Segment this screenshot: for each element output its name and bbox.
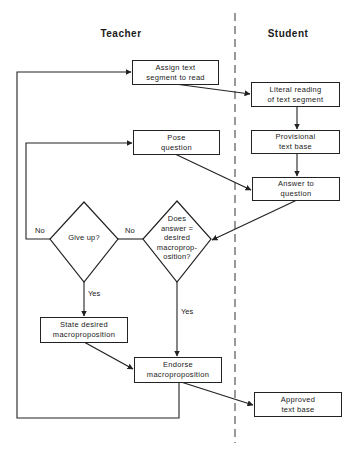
node-line: Provisional: [276, 132, 316, 142]
node-line: question: [161, 143, 192, 153]
node-line: Pose: [167, 133, 185, 143]
edge-answer-to-decision: [212, 200, 297, 240]
node-line: desired: [150, 233, 204, 243]
edge-endorse-to-approved: [181, 382, 253, 405]
edge-pose-to-answer: [175, 154, 251, 190]
node-pose-question: Pose question: [133, 130, 220, 155]
node-literal-reading: Literal reading of text segment: [251, 82, 340, 107]
node-line: Assign text: [156, 63, 196, 73]
node-provisional-text-base: Provisional text base: [251, 130, 340, 154]
node-line: text base: [279, 142, 312, 152]
node-line: Answer to: [278, 179, 314, 189]
node-state-desired-macroproposition: State desired macroproposition: [40, 317, 128, 343]
node-line: macroproposition: [147, 370, 209, 380]
node-line: Literal reading: [269, 85, 321, 95]
node-line: of text segment: [268, 95, 324, 105]
node-line: Endorse: [163, 360, 193, 370]
node-line: text base: [281, 405, 314, 415]
lane-title-student: Student: [248, 28, 328, 39]
node-line: segment to read: [146, 73, 205, 83]
node-line: macroproposition: [53, 330, 115, 340]
node-line: question: [281, 189, 312, 199]
edge-label-decision-no: No: [125, 226, 135, 235]
node-line: State desired: [60, 320, 108, 330]
node-line: macroprop-: [150, 243, 204, 253]
edge-label-giveup-yes: Yes: [88, 289, 100, 298]
node-assign-text-segment: Assign text segment to read: [132, 60, 219, 85]
edge-label-giveup-no: No: [35, 226, 45, 235]
node-line: osition?: [150, 252, 204, 262]
edge-assign-to-literal: [175, 84, 250, 94]
node-answer-to-question: Answer to question: [252, 177, 340, 201]
node-endorse-macroproposition: Endorse macroproposition: [134, 357, 222, 383]
node-approved-text-base: Approved text base: [254, 392, 342, 417]
node-line: answer =: [150, 224, 204, 234]
node-line: Give up?: [68, 233, 100, 242]
node-line: Approved: [281, 395, 316, 405]
edge-state-to-endorse: [84, 342, 133, 369]
edge-label-decision-yes: Yes: [181, 307, 193, 316]
decision-give-up-label: Give up?: [60, 233, 108, 243]
node-line: Does: [150, 214, 204, 224]
lane-title-teacher: Teacher: [81, 28, 161, 39]
decision-answer-matches-label: Does answer = desired macroprop- osition…: [150, 214, 204, 262]
